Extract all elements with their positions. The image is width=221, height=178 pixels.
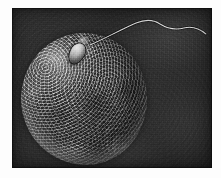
page-margin-left [0, 0, 12, 178]
sperm-flagellum-layer [12, 8, 212, 168]
page-margin-right [212, 0, 221, 178]
sperm-flagellum-shadow [90, 20, 206, 45]
micrograph-plate [12, 8, 212, 168]
micrograph-page [0, 0, 221, 178]
page-margin-bottom [0, 168, 221, 178]
sperm-flagellum [90, 20, 206, 45]
page-margin-top [0, 0, 221, 8]
